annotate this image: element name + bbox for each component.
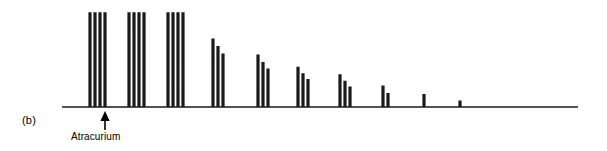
- trace-path-group: [62, 13, 578, 107]
- drug-annotation-label: Atracurium: [71, 131, 120, 142]
- injection-arrow-head: [100, 111, 109, 121]
- tof-twitch-trace: [0, 0, 607, 151]
- panel-label: (b): [22, 114, 36, 126]
- injection-arrow-group: [100, 111, 109, 130]
- twitch-waveform-path: [62, 13, 578, 107]
- figure-panel-b: (b) Atracurium: [0, 0, 607, 151]
